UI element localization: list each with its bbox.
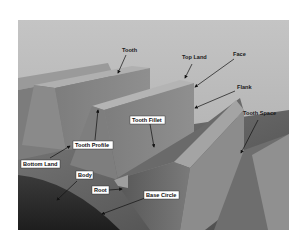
- gear-tooth-diagram: Tooth Top Land Face Flank Tooth Space To…: [0, 0, 307, 248]
- label-top-land: Top Land: [182, 54, 207, 60]
- label-tooth-fillet: Tooth Fillet: [132, 117, 162, 123]
- label-tooth-space: Tooth Space: [243, 110, 276, 116]
- label-body: Body: [78, 172, 93, 178]
- label-base-circle: Base Circle: [146, 192, 176, 198]
- label-root: Root: [94, 187, 107, 193]
- label-bottom-land: Bottom Land: [23, 161, 58, 167]
- label-tooth: Tooth: [122, 47, 138, 53]
- label-face: Face: [233, 51, 246, 57]
- label-tooth-profile: Tooth Profile: [75, 142, 109, 148]
- label-flank: Flank: [237, 84, 252, 90]
